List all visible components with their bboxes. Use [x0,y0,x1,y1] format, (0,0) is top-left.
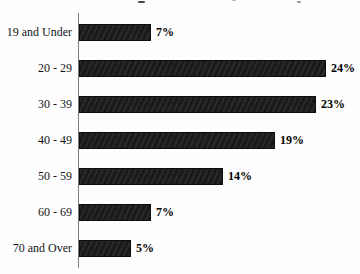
bar-row: 30 - 3923% [0,86,360,122]
value-label: 19% [280,133,304,148]
bar [79,168,223,185]
bar-chart-figure: 19 and Under7%20 - 2924%30 - 3923%40 - 4… [0,0,360,274]
bar [79,204,151,221]
bar [79,24,151,41]
category-label: 30 - 39 [0,97,72,112]
bar-row: 50 - 5914% [0,158,360,194]
category-label: 40 - 49 [0,133,72,148]
bar [79,132,275,149]
value-label: 23% [321,97,345,112]
bar-row: 19 and Under7% [0,14,360,50]
bar-row: 60 - 697% [0,194,360,230]
value-label: 24% [331,61,355,76]
value-label: 7% [156,25,174,40]
category-label: 20 - 29 [0,61,72,76]
bar-row: 20 - 2924% [0,50,360,86]
category-label: 50 - 59 [0,169,72,184]
bar-row: 70 and Over5% [0,230,360,266]
bar [79,96,316,113]
clipped-title-remnant [138,1,145,3]
category-label: 70 and Over [0,241,72,256]
category-label: 60 - 69 [0,205,72,220]
clipped-title-remnant [297,1,301,3]
clipped-title-remnant [232,0,236,1]
value-label: 5% [136,241,154,256]
bar [79,60,326,77]
bar-row: 40 - 4919% [0,122,360,158]
category-label: 19 and Under [0,25,72,40]
value-label: 7% [156,205,174,220]
bar [79,240,131,257]
value-label: 14% [228,169,252,184]
chart-plot-area: 19 and Under7%20 - 2924%30 - 3923%40 - 4… [0,14,360,266]
